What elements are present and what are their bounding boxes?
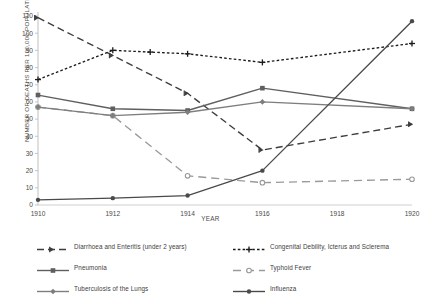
legend-swatch-diarrhoea-icon (36, 241, 70, 252)
legend-label: Tuberculosis of the Lungs (74, 285, 148, 292)
legend-item: Pneumonia (36, 257, 241, 278)
svg-text:10: 10 (26, 184, 34, 191)
legend-column-left: Diarrhoea and Enteritis (under 2 years) … (36, 236, 241, 299)
chart-legend: Diarrhoea and Enteritis (under 2 years) … (0, 236, 421, 304)
legend-label: Diarrhoea and Enteritis (under 2 years) (74, 243, 187, 250)
legend-label: Pneumonia (74, 264, 107, 271)
line-chart: NUMBER OF DEATHS PER 100,000 POPULATION … (0, 0, 421, 304)
svg-text:20: 20 (26, 167, 34, 174)
legend-item: Diarrhoea and Enteritis (under 2 years) (36, 236, 241, 257)
legend-label: Influenza (270, 285, 296, 292)
legend-label: Congenital Debility, Icterus and Sclerem… (270, 243, 389, 250)
legend-item: Typhoid Fever (232, 257, 421, 278)
plot-area: NUMBER OF DEATHS PER 100,000 POPULATION … (0, 0, 421, 228)
legend-swatch-typhoid-icon (232, 262, 266, 273)
chart-canvas: 0102030405060708090100110191019121914191… (0, 0, 421, 228)
svg-text:0: 0 (29, 201, 33, 208)
legend-column-right: Congenital Debility, Icterus and Sclerem… (232, 236, 421, 299)
y-axis-label: NUMBER OF DEATHS PER 100,000 POPULATION (23, 0, 30, 156)
legend-item: Congenital Debility, Icterus and Sclerem… (232, 236, 421, 257)
legend-swatch-influenza-icon (232, 283, 266, 294)
legend-item: Tuberculosis of the Lungs (36, 278, 241, 299)
x-axis-label: YEAR (0, 215, 421, 222)
legend-item: Influenza (232, 278, 421, 299)
legend-label: Typhoid Fever (270, 264, 311, 271)
legend-swatch-pneumonia-icon (36, 262, 70, 273)
legend-swatch-tuberculosis-icon (36, 283, 70, 294)
legend-swatch-congenital-icon (232, 241, 266, 252)
